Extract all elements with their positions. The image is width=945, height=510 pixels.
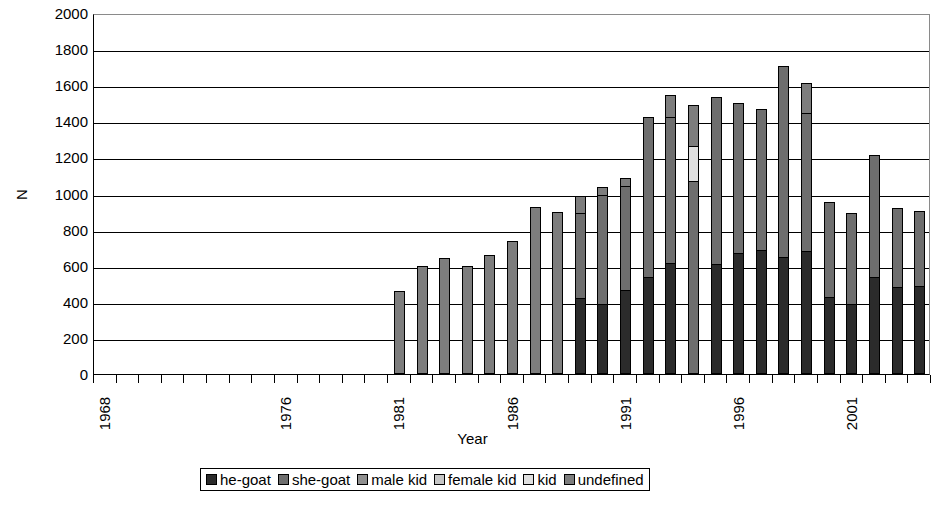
legend-swatch-icon bbox=[564, 474, 575, 485]
y-tick-label: 2000 bbox=[36, 6, 88, 21]
legend-item-kid: kid bbox=[523, 472, 556, 487]
x-tick bbox=[432, 375, 433, 383]
y-tick-label: 1400 bbox=[36, 114, 88, 129]
bar-1988 bbox=[552, 212, 563, 374]
bar-1997 bbox=[756, 108, 767, 374]
bar-2002 bbox=[869, 154, 880, 374]
legend-item-she-goat: she-goat bbox=[278, 472, 350, 487]
bar-segment-she-goat bbox=[914, 211, 925, 288]
x-tick bbox=[840, 375, 841, 383]
bar-segment-she-goat bbox=[575, 213, 586, 300]
x-tick bbox=[93, 375, 94, 383]
bar-1981 bbox=[394, 291, 405, 374]
bar-segment-she-goat bbox=[778, 66, 789, 257]
bar-segment-he-goat bbox=[869, 277, 880, 374]
bar-segment-he-goat bbox=[892, 287, 903, 374]
x-tick bbox=[500, 375, 501, 383]
bar-segment-kid bbox=[688, 146, 699, 182]
bar-segment-he-goat bbox=[597, 304, 608, 374]
bar-segment-she-goat bbox=[665, 117, 676, 264]
bar-segment-he-goat bbox=[846, 304, 857, 374]
bar-segment-undefined bbox=[417, 266, 428, 374]
bar-segment-undefined bbox=[484, 255, 495, 374]
bar-segment-undefined bbox=[665, 95, 676, 118]
y-tick-label: 1800 bbox=[36, 42, 88, 57]
bar-2000 bbox=[824, 201, 835, 374]
bar-segment-she-goat bbox=[688, 181, 699, 374]
bar-1989 bbox=[575, 194, 586, 375]
x-tick bbox=[274, 375, 275, 383]
y-tick-label: 600 bbox=[36, 259, 88, 274]
x-tick bbox=[342, 375, 343, 383]
bar-1990 bbox=[597, 184, 608, 374]
chart-legend: he-goatshe-goatmale kidfemale kidkidunde… bbox=[200, 468, 650, 491]
y-tick-label: 1200 bbox=[36, 150, 88, 165]
bar-segment-undefined bbox=[552, 212, 563, 374]
x-tick bbox=[772, 375, 773, 383]
bar-segment-undefined bbox=[575, 196, 586, 214]
bar-1998 bbox=[778, 65, 789, 374]
x-tick bbox=[297, 375, 298, 383]
bar-1996 bbox=[733, 102, 744, 374]
bar-2001 bbox=[846, 212, 857, 374]
bar-segment-she-goat bbox=[733, 103, 744, 254]
legend-item-female-kid: female kid bbox=[434, 472, 516, 487]
y-tick-label: 800 bbox=[36, 223, 88, 238]
legend-swatch-icon bbox=[357, 474, 368, 485]
bar-1991 bbox=[620, 176, 631, 374]
bar-segment-she-goat bbox=[846, 213, 857, 305]
x-tick bbox=[659, 375, 660, 383]
plot-area bbox=[93, 14, 930, 375]
bar-segment-she-goat bbox=[824, 202, 835, 299]
x-tick bbox=[613, 375, 614, 383]
bar-2004 bbox=[914, 210, 925, 374]
x-tick bbox=[251, 375, 252, 383]
bar-1985 bbox=[484, 255, 495, 374]
bar-segment-she-goat bbox=[620, 186, 631, 291]
bar-segment-undefined bbox=[507, 241, 518, 374]
x-tick bbox=[478, 375, 479, 383]
legend-label: he-goat bbox=[220, 472, 271, 487]
bar-1992 bbox=[643, 116, 654, 374]
bar-segment-he-goat bbox=[914, 286, 925, 374]
bar-segment-undefined bbox=[801, 83, 812, 115]
legend-label: female kid bbox=[448, 472, 516, 487]
x-tick bbox=[749, 375, 750, 383]
bar-segment-she-goat bbox=[756, 109, 767, 252]
bar-segment-she-goat bbox=[801, 113, 812, 252]
goat-population-stacked-bar-chart: N 0200400600800100012001400160018002000 … bbox=[0, 0, 945, 510]
x-tick bbox=[319, 375, 320, 383]
x-tick bbox=[545, 375, 546, 383]
x-tick bbox=[862, 375, 863, 383]
x-tick bbox=[794, 375, 795, 383]
x-tick bbox=[636, 375, 637, 383]
x-tick bbox=[885, 375, 886, 383]
bar-segment-he-goat bbox=[801, 251, 812, 374]
legend-label: she-goat bbox=[292, 472, 350, 487]
legend-swatch-icon bbox=[523, 474, 534, 485]
bar-1994 bbox=[688, 103, 699, 374]
x-tick bbox=[930, 375, 931, 383]
legend-swatch-icon bbox=[278, 474, 289, 485]
x-tick bbox=[206, 375, 207, 383]
legend-swatch-icon bbox=[434, 474, 445, 485]
y-axis-title: N bbox=[13, 180, 30, 210]
legend-label: undefined bbox=[578, 472, 644, 487]
bars-container bbox=[94, 15, 929, 374]
bar-1987 bbox=[530, 207, 541, 374]
legend-swatch-icon bbox=[206, 474, 217, 485]
bar-segment-she-goat bbox=[711, 97, 722, 265]
bar-segment-she-goat bbox=[597, 195, 608, 305]
legend-label: male kid bbox=[371, 472, 427, 487]
bar-segment-he-goat bbox=[711, 264, 722, 374]
x-axis-title: Year bbox=[0, 430, 945, 447]
x-tick bbox=[410, 375, 411, 383]
x-tick bbox=[161, 375, 162, 383]
bar-1982 bbox=[417, 266, 428, 374]
x-tick bbox=[523, 375, 524, 383]
bar-segment-he-goat bbox=[733, 253, 744, 374]
x-tick bbox=[681, 375, 682, 383]
x-tick bbox=[726, 375, 727, 383]
bar-segment-he-goat bbox=[778, 257, 789, 374]
bar-segment-undefined bbox=[688, 105, 699, 147]
